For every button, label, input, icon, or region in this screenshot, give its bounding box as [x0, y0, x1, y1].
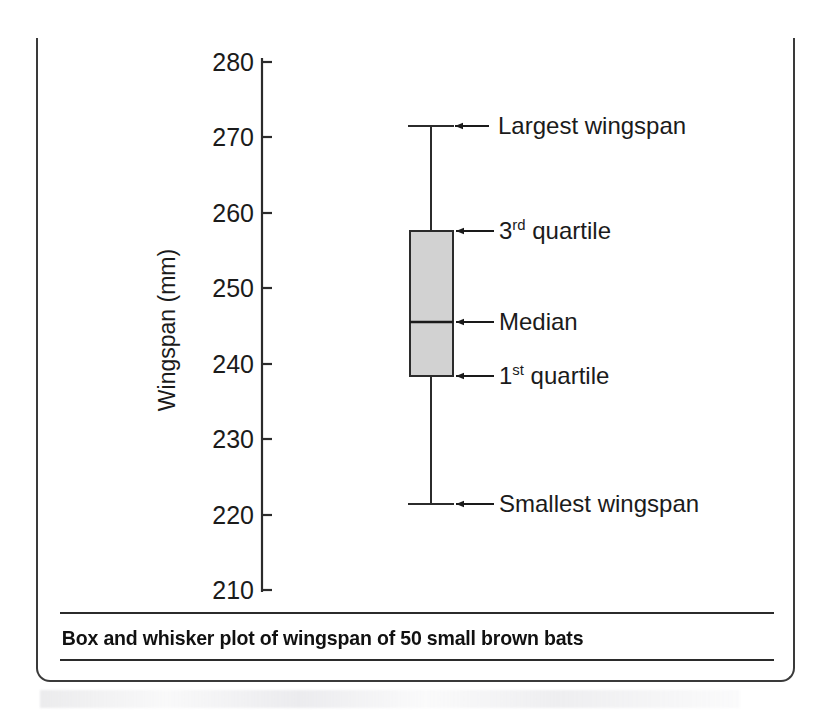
y-tick-label-240: 240: [192, 352, 254, 377]
annotation-third-quartile-number: 3: [499, 217, 512, 244]
annotation-first-quartile-number: 1: [499, 362, 512, 389]
scan-artifact: [40, 690, 740, 708]
figure-caption-block: Box and whisker plot of wingspan of 50 s…: [60, 612, 774, 661]
annotation-median: Median: [499, 310, 578, 334]
y-tick-label-220: 220: [192, 503, 254, 528]
y-tick-label-280: 280: [192, 50, 254, 75]
y-tick-label-260: 260: [192, 201, 254, 226]
y-axis-title: Wingspan (mm): [154, 180, 181, 480]
y-tick-label-210: 210: [192, 578, 254, 603]
annotation-largest-wingspan: Largest wingspan: [498, 114, 686, 138]
annotation-first-quartile-word: quartile: [524, 362, 609, 389]
y-tick-label-250: 250: [192, 276, 254, 301]
annotation-third-quartile-ordinal: rd: [512, 217, 525, 233]
annotation-first-quartile-ordinal: st: [512, 362, 524, 378]
figure-caption: Box and whisker plot of wingspan of 50 s…: [60, 614, 724, 659]
annotation-third-quartile: 3rd quartile: [499, 219, 611, 243]
y-tick-label-270: 270: [192, 125, 254, 150]
annotation-smallest-wingspan: Smallest wingspan: [499, 492, 699, 516]
y-axis-ticks: [262, 62, 272, 590]
caption-rule-bottom: [60, 659, 774, 661]
annotation-third-quartile-word: quartile: [526, 217, 611, 244]
interquartile-box: [410, 231, 453, 376]
annotation-first-quartile: 1st quartile: [499, 364, 609, 388]
y-tick-label-230: 230: [192, 427, 254, 452]
